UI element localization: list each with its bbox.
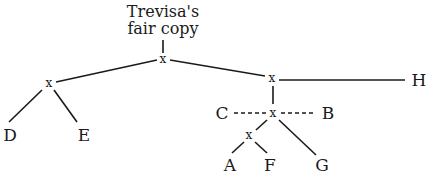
edge-x2-E <box>54 90 77 122</box>
edge-x2-D <box>9 90 42 122</box>
witness-H: H <box>412 70 427 90</box>
witness-C: C <box>215 103 228 123</box>
node-x1: x <box>160 52 167 66</box>
edge-x5-F <box>255 142 267 153</box>
title-line-2: fair copy <box>127 19 198 38</box>
witness-A: A <box>223 155 237 175</box>
witness-G: G <box>315 155 329 175</box>
edge-x5-A <box>232 142 244 153</box>
stemma-diagram: Trevisa's fair copy x x x x x D E H C B … <box>0 0 429 175</box>
edge-x1-x2 <box>56 60 157 82</box>
node-x5: x <box>246 128 253 142</box>
edge-x4-x5 <box>256 120 267 130</box>
node-x2: x <box>46 76 53 90</box>
witness-E: E <box>78 125 90 145</box>
edge-x4-G <box>279 120 316 155</box>
edge-x1-x3 <box>170 60 265 76</box>
node-x4: x <box>270 106 277 120</box>
witness-D: D <box>3 125 17 145</box>
witness-F: F <box>264 155 276 175</box>
witness-B: B <box>322 103 335 123</box>
node-x3: x <box>269 71 276 85</box>
